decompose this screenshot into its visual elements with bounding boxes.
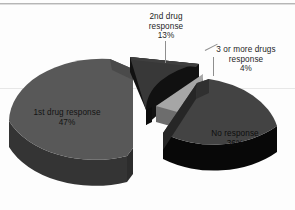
slice-label-first-drug-response: 1st drug response 47% [8, 108, 126, 127]
slice-label-three-or-more-line2: response [198, 55, 294, 65]
slice-label-three-or-more-line1: 3 or more drugs [198, 45, 294, 55]
slice-label-three-or-more-percent: 4% [198, 64, 294, 74]
slice-label-second-drug-percent: 13% [118, 31, 214, 41]
slice-label-second-drug-line2: response [118, 22, 214, 32]
slice-label-first-drug-line1: 1st drug response [8, 108, 126, 118]
slice-label-no-response-line1: No response [192, 129, 278, 139]
slice-label-second-drug-line1: 2nd drug [118, 12, 214, 22]
slice-label-second-drug-response: 2nd drug response 13% [118, 12, 214, 41]
slice-label-first-drug-percent: 47% [8, 118, 126, 128]
pie-chart-figure: 2nd drug response 13% 3 or more drugs re… [0, 0, 295, 210]
slice-label-no-response: No response 36% [192, 129, 278, 148]
slice-label-no-response-percent: 36% [192, 139, 278, 149]
slice-label-three-or-more-drugs-response: 3 or more drugs response 4% [198, 45, 294, 74]
leader-line-second-drug [165, 41, 166, 63]
